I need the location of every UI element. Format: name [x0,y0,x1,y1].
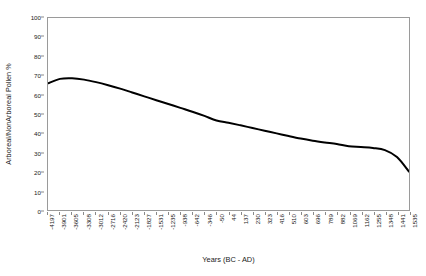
x-axis-tick-label: -3012 [98,214,104,230]
x-axis-tick-mark [277,212,278,215]
x-axis-tick-mark [301,212,302,215]
x-axis-tick-mark [362,212,363,215]
x-axis-tick-label: 789 [328,214,334,224]
x-axis-tick-label: -3605 [73,214,79,230]
y-axis-tick-label: 60 [34,91,41,98]
y-axis-tick-labels: 0102030405060708090100 [17,17,44,211]
x-axis-tick-mark [156,212,157,215]
x-axis-tick-label: 1535 [412,214,418,228]
x-axis-tick-mark [47,212,48,215]
y-axis-tick-mark [41,55,44,56]
x-axis-tick-mark [265,212,266,215]
x-axis-tick-label: 137 [243,214,249,224]
x-axis-tick-label: 416 [279,214,285,224]
y-axis-tick-label: 50 [34,111,41,118]
x-axis-tick-label: 44 [231,214,237,221]
plot-area [47,17,410,211]
x-axis-tick-label: 230 [255,214,261,224]
x-axis-tick-mark [374,212,375,215]
y-axis-tick-mark [41,172,44,173]
x-axis-tick-label: 603 [303,214,309,224]
y-axis-tick-label: 70 [34,72,41,79]
pollen-series-line [48,78,409,171]
y-axis-tick-label: 90 [34,33,41,40]
y-axis-tick-label: 10 [34,188,41,195]
y-axis-tick-mark [41,133,44,134]
x-axis-tick-label: 696 [315,214,321,224]
y-axis-title-text: Arboreal/NonArboreal Pollen % [4,63,13,164]
x-axis-tick-mark [350,212,351,215]
x-axis-tick-label: 1069 [352,214,358,228]
x-axis-tick-mark [83,212,84,215]
y-axis-tick-label: 30 [34,149,41,156]
y-axis-title: Arboreal/NonArboreal Pollen % [0,17,16,211]
x-axis-tick-mark [325,212,326,215]
x-axis-tick-label: -3308 [86,214,92,230]
x-axis-tick-mark [313,212,314,215]
x-axis-tick-mark [168,212,169,215]
x-axis-tick-mark [229,212,230,215]
x-axis-tick-label: 510 [291,214,297,224]
x-axis-tick-mark [216,212,217,215]
y-axis-tick-label: 100 [31,14,41,21]
x-axis-tick-mark [398,212,399,215]
x-axis-tick-label: 1348 [388,214,394,228]
x-axis-tick-label: -642 [194,214,200,226]
y-axis-tick-label: 20 [34,169,41,176]
y-axis-tick-mark [41,94,44,95]
x-axis-tick-label: -4197 [49,214,55,230]
x-axis-tick-label: 882 [340,214,346,224]
x-axis-tick-label: 1441 [400,214,406,228]
x-axis-tick-label: 1162 [364,214,370,227]
x-axis-tick-mark [180,212,181,215]
x-axis-tick-label: -2123 [134,214,140,230]
x-axis-tick-mark [192,212,193,215]
x-axis-tick-mark [144,212,145,215]
y-axis-tick-mark [41,114,44,115]
x-axis-tick-mark [95,212,96,215]
x-axis-tick-label: -938 [182,214,188,226]
x-axis-tick-label: -1531 [158,214,164,230]
x-axis-tick-label: -1827 [146,214,152,230]
x-axis-tick-mark [253,212,254,215]
x-axis-tick-label: 323 [267,214,273,224]
pollen-percentage-line-chart: Arboreal/NonArboreal Pollen % 0102030405… [0,0,426,276]
y-axis-tick-mark [41,75,44,76]
y-axis-tick-mark [41,191,44,192]
y-axis-tick-mark [41,36,44,37]
x-axis-tick-label: -3901 [61,214,67,230]
x-axis-tick-labels: -4197-3901-3605-3308-3012-2716-2420-2123… [47,212,410,252]
x-axis-tick-label: -346 [207,214,213,226]
x-axis-tick-mark [241,212,242,215]
y-axis-tick-label: 40 [34,130,41,137]
x-axis-tick-mark [410,212,411,215]
x-axis-tick-label: -50 [219,214,225,223]
x-axis-tick-mark [59,212,60,215]
x-axis-tick-mark [132,212,133,215]
y-axis-tick-mark [41,211,44,212]
y-axis-tick-mark [41,152,44,153]
x-axis-tick-label: 1255 [376,214,382,228]
x-axis-tick-mark [386,212,387,215]
x-axis-tick-label: -2420 [122,214,128,230]
x-axis-tick-label: -2716 [110,214,116,230]
x-axis-tick-mark [120,212,121,215]
x-axis-tick-label: -1235 [170,214,176,230]
y-axis-tick-label: 80 [34,52,41,59]
y-axis-tick-mark [41,17,44,18]
x-axis-title: Years (BC - AD) [47,255,410,264]
x-axis-tick-mark [289,212,290,215]
x-axis-tick-mark [337,212,338,215]
x-axis-tick-mark [108,212,109,215]
x-axis-tick-mark [204,212,205,215]
data-line-svg [48,18,409,210]
x-axis-tick-mark [71,212,72,215]
